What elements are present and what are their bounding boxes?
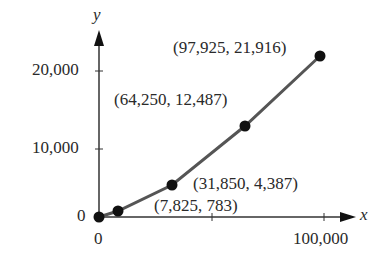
data-point-3 xyxy=(240,121,251,132)
data-point-1 xyxy=(113,206,124,217)
annotation-point-1: (7,825, 783) xyxy=(154,196,238,216)
data-point-4 xyxy=(315,51,326,62)
y-tick-label-0: 0 xyxy=(77,206,86,226)
y-axis-arrow-icon xyxy=(94,30,104,46)
data-point-2 xyxy=(167,180,178,191)
annotation-point-2: (31,850, 4,387) xyxy=(193,174,298,194)
annotation-point-4: (97,925, 21,916) xyxy=(173,38,286,58)
x-axis-arrow-icon xyxy=(340,212,356,222)
x-tick-label-100000: 100,000 xyxy=(293,229,348,249)
y-tick-label-10000: 10,000 xyxy=(32,138,79,158)
x-axis-label: x xyxy=(360,205,368,225)
data-point-origin xyxy=(94,212,105,223)
x-tick-label-0: 0 xyxy=(94,229,103,249)
y-axis-label: y xyxy=(93,5,101,25)
annotation-point-3: (64,250, 12,487) xyxy=(114,90,227,110)
y-tick-label-20000: 20,000 xyxy=(32,60,79,80)
